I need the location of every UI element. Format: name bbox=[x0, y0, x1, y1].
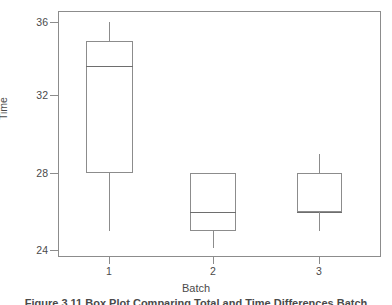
y-tick-label-28: 28 bbox=[8, 168, 48, 179]
box1-upper-whisker bbox=[109, 22, 110, 41]
y-tick-label-32: 32 bbox=[8, 90, 48, 101]
box1-lower-whisker bbox=[109, 173, 110, 231]
box1-rect bbox=[86, 41, 133, 173]
box2-rect bbox=[190, 173, 236, 231]
box2-median-line bbox=[190, 212, 236, 213]
x-axis-title: Batch bbox=[0, 282, 392, 294]
y-tick-36 bbox=[50, 22, 58, 23]
figure-caption: Figure 3.11 Box Plot Comparing Total and… bbox=[0, 297, 392, 305]
box1-median-line bbox=[86, 66, 133, 67]
y-tick-label-36: 36 bbox=[8, 17, 48, 28]
x-tick-label-3: 3 bbox=[299, 266, 339, 277]
y-tick-24 bbox=[50, 250, 58, 251]
y-tick-label-24: 24 bbox=[8, 245, 48, 256]
box3-rect bbox=[297, 173, 342, 212]
x-tick-3 bbox=[319, 257, 320, 264]
box2-lower-whisker bbox=[213, 231, 214, 248]
x-tick-label-2: 2 bbox=[193, 266, 233, 277]
x-tick-1 bbox=[109, 257, 110, 264]
y-tick-32 bbox=[50, 95, 58, 96]
x-tick-label-1: 1 bbox=[89, 266, 129, 277]
y-tick-28 bbox=[50, 173, 58, 174]
boxplot-figure: Time 36 32 28 24 1 2 3 Batch Figure 3.11… bbox=[0, 0, 392, 305]
x-tick-2 bbox=[213, 257, 214, 264]
box3-lower-whisker bbox=[319, 212, 320, 231]
box3-upper-whisker bbox=[319, 154, 320, 173]
